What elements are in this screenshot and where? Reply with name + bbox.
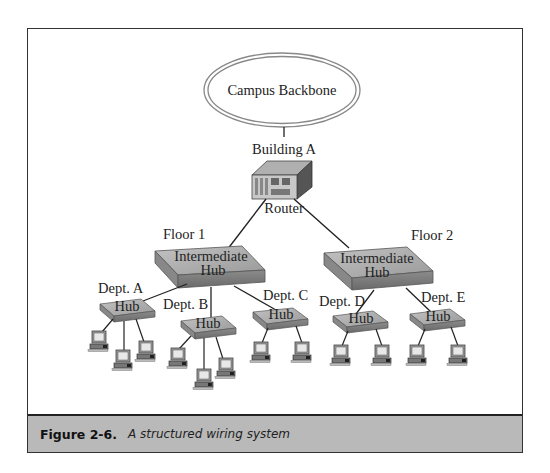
floor1-hub-line2: Hub xyxy=(201,262,226,278)
computer-icon xyxy=(193,369,213,390)
figure-caption-text: A structured wiring system xyxy=(128,427,290,441)
intermediate-hub-floor2: Intermediate Hub xyxy=(324,247,433,290)
computer-icon xyxy=(447,345,467,366)
dept-a-label: Dept. A xyxy=(98,280,144,296)
hub-dept-a: Hub xyxy=(100,298,155,322)
svg-text:Hub: Hub xyxy=(115,298,140,314)
svg-text:Hub: Hub xyxy=(426,308,451,324)
building-label: Building A xyxy=(252,141,317,157)
computer-icon xyxy=(135,341,155,362)
figure-number: Figure 2-6. xyxy=(40,427,128,442)
computer-icon xyxy=(88,331,108,352)
structured-wiring-diagram: Campus Backbone Building A Router Floor … xyxy=(28,29,524,419)
computer-icon xyxy=(250,342,270,363)
svg-text:Hub: Hub xyxy=(269,306,294,322)
dept-b-label: Dept. B xyxy=(163,296,208,312)
floor1-label: Floor 1 xyxy=(163,226,205,242)
svg-text:Hub: Hub xyxy=(196,315,221,331)
campus-backbone: Campus Backbone xyxy=(204,53,360,127)
hub-dept-b: Hub xyxy=(181,315,236,339)
computer-icon xyxy=(330,345,350,366)
link-router-floor1 xyxy=(227,199,266,250)
floor2-hub-line2: Hub xyxy=(365,264,390,280)
svg-text:Hub: Hub xyxy=(349,310,374,326)
figure-caption: Figure 2-6. A structured wiring system xyxy=(28,414,522,452)
computer-icon xyxy=(371,345,391,366)
intermediate-hub-floor1: Intermediate Hub xyxy=(155,246,265,288)
hub-dept-e: Hub xyxy=(410,308,465,331)
link-router-floor2 xyxy=(294,199,349,248)
computer-icon xyxy=(167,348,187,369)
router-icon xyxy=(252,161,312,199)
dept-c-label: Dept. C xyxy=(263,287,308,303)
computer-icon xyxy=(291,342,311,363)
dept-d-label: Dept. D xyxy=(319,293,365,309)
hub-dept-d: Hub xyxy=(333,310,388,333)
figure-frame: Campus Backbone Building A Router Floor … xyxy=(27,28,523,453)
computer-icon xyxy=(112,350,132,371)
hub-dept-c: Hub xyxy=(253,306,308,330)
backbone-label: Campus Backbone xyxy=(227,82,336,98)
computer-icon xyxy=(215,358,235,379)
computer-icon xyxy=(406,345,426,366)
floor2-label: Floor 2 xyxy=(411,227,453,243)
dept-e-label: Dept. E xyxy=(421,289,465,305)
